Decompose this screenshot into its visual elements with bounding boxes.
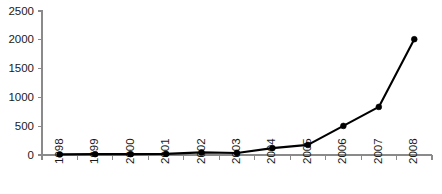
- data-point-marker: [305, 142, 311, 148]
- series-line: [60, 39, 415, 154]
- x-tick-label: 2008: [407, 138, 419, 164]
- y-tick-label: 1500: [8, 62, 34, 74]
- data-point-marker: [376, 104, 382, 110]
- data-point-marker: [128, 151, 134, 157]
- x-tick-label: 2006: [336, 138, 348, 164]
- x-tick-label: 2007: [372, 138, 384, 164]
- data-point-marker: [234, 150, 240, 156]
- chart-canvas: 05001000150020002500 1998199920002001200…: [0, 0, 442, 194]
- data-point-marker: [57, 152, 63, 158]
- y-tick-label: 500: [15, 120, 34, 132]
- data-point-marker: [199, 150, 205, 156]
- y-axis: 05001000150020002500: [8, 5, 42, 161]
- line-chart: 05001000150020002500 1998199920002001200…: [0, 0, 442, 194]
- y-tick-label: 0: [28, 149, 34, 161]
- data-point-marker: [411, 36, 417, 42]
- data-point-marker: [163, 151, 169, 157]
- data-point-marker: [270, 145, 276, 151]
- x-tick-label: 1998: [53, 138, 65, 164]
- data-point-marker: [340, 123, 346, 129]
- y-tick-label: 1000: [8, 91, 34, 103]
- y-tick-label: 2500: [8, 5, 34, 17]
- data-series: [60, 39, 415, 154]
- y-tick-label: 2000: [8, 33, 34, 45]
- data-point-marker: [92, 151, 98, 157]
